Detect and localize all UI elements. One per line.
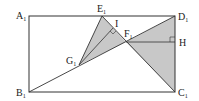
label-f1: F1 bbox=[124, 28, 133, 40]
label-e1: E1 bbox=[97, 3, 106, 15]
shaded-triangle-f1d1c1 bbox=[126, 16, 175, 92]
label-h: H bbox=[179, 37, 186, 48]
label-d1: D1 bbox=[178, 11, 188, 23]
label-a1: A1 bbox=[16, 10, 26, 22]
label-c1: C1 bbox=[178, 87, 188, 99]
label-g1: G1 bbox=[66, 55, 76, 67]
label-b1: B1 bbox=[16, 87, 26, 99]
geometry-diagram: A1 B1 C1 D1 E1 F1 G1 I H bbox=[0, 0, 199, 101]
label-i: I bbox=[115, 18, 118, 29]
